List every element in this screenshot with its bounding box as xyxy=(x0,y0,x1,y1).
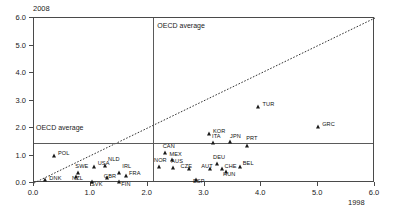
x-axis-title: 1998 xyxy=(348,198,365,207)
scatter-chart-figure: 2008 1998 0.01.02.03.04.05.06.0 0.01.02.… xyxy=(0,0,406,215)
data-point-label: CAN xyxy=(163,143,175,149)
y-tick-label: 4.0 xyxy=(4,68,26,77)
data-point-label: SWE xyxy=(75,163,88,169)
data-point-label: IRL xyxy=(122,163,131,169)
oecd-average-horizontal xyxy=(34,143,373,144)
data-point-label: SVK xyxy=(91,181,103,187)
data-point-marker xyxy=(52,153,56,157)
y-tick-label: 5.0 xyxy=(4,40,26,49)
data-point-marker xyxy=(245,143,249,147)
data-point-marker xyxy=(215,161,219,165)
data-point-marker xyxy=(228,140,232,144)
data-point-marker xyxy=(316,125,320,129)
x-tick-label: 5.0 xyxy=(302,188,332,197)
y-tick-label: 0.0 xyxy=(4,178,26,187)
y-tick-label: 6.0 xyxy=(4,13,26,22)
x-tick-mark xyxy=(147,182,148,186)
data-point-marker xyxy=(163,151,167,155)
data-point-label: AUT xyxy=(201,163,213,169)
data-point-label: NZL xyxy=(72,175,83,181)
data-point-label: ESP xyxy=(193,178,205,184)
data-point-marker xyxy=(220,166,224,170)
data-point-marker xyxy=(157,165,161,169)
data-point-label: JPN xyxy=(230,133,241,139)
data-point-label: FRA xyxy=(129,170,141,176)
data-point-marker xyxy=(103,164,107,168)
x-tick-label: 0.0 xyxy=(18,188,48,197)
data-point-marker xyxy=(124,174,128,178)
data-point-label: KOR xyxy=(213,128,225,134)
data-point-label: NOR xyxy=(154,157,167,163)
data-point-label: TUR xyxy=(262,101,274,107)
data-point-label: CHE xyxy=(225,163,237,169)
data-point-label: MEX xyxy=(170,151,182,157)
data-point-label: GRC xyxy=(322,121,335,127)
x-tick-label: 1.0 xyxy=(75,188,105,197)
data-point-marker xyxy=(92,165,96,169)
y-tick-label: 1.0 xyxy=(4,150,26,159)
plot-area: OECD averageOECD average DNKPOLSWENZLUSA… xyxy=(33,17,374,182)
data-point-label: DNK xyxy=(49,175,61,181)
x-tick-mark xyxy=(374,182,375,186)
data-point-marker xyxy=(207,132,211,136)
data-point-label: PRT xyxy=(246,135,257,141)
data-point-marker xyxy=(238,164,242,168)
y-tick-label: 2.0 xyxy=(4,123,26,132)
x-tick-label: 3.0 xyxy=(189,188,219,197)
data-point-marker xyxy=(43,177,47,181)
data-point-label: DEU xyxy=(213,154,225,160)
x-tick-label: 6.0 xyxy=(359,188,389,197)
x-tick-mark xyxy=(317,182,318,186)
oecd-average-vertical-label: OECD average xyxy=(157,22,204,29)
x-tick-label: 4.0 xyxy=(245,188,275,197)
x-tick-mark xyxy=(260,182,261,186)
data-point-label: HUN xyxy=(223,171,235,177)
data-point-label: BEL xyxy=(243,160,254,166)
data-point-label: POL xyxy=(58,150,70,156)
diagonal-reference-line xyxy=(34,18,373,181)
data-point-label: GBR xyxy=(104,173,116,179)
x-tick-label: 2.0 xyxy=(132,188,162,197)
data-point-marker xyxy=(171,165,175,169)
data-point-label: CZE xyxy=(181,163,193,169)
oecd-average-horizontal-label: OECD average xyxy=(36,124,83,131)
y-axis-title: 2008 xyxy=(33,4,50,13)
data-point-marker xyxy=(117,171,121,175)
data-point-label: FIN xyxy=(121,181,130,187)
y-tick-label: 3.0 xyxy=(4,95,26,104)
data-point-marker xyxy=(211,141,215,145)
data-point-label: NLD xyxy=(108,156,120,162)
data-point-marker xyxy=(256,105,260,109)
